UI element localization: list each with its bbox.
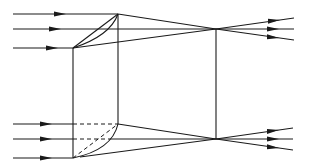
top-diverging-rays (216, 18, 294, 40)
lens-block (73, 14, 118, 158)
top-converging-rays (73, 14, 216, 48)
arrow-icon (267, 34, 279, 39)
arrow-icon (40, 137, 52, 142)
arrow-icon (40, 156, 52, 161)
bottom-incoming-rays (13, 122, 73, 161)
optics-diagram (0, 0, 309, 166)
arrow-icon (54, 12, 66, 17)
arrow-icon (267, 27, 279, 32)
arrow-icon (49, 27, 61, 32)
arrow-icon (46, 46, 58, 51)
arrow-icon (267, 129, 279, 134)
arrow-icon (268, 19, 280, 24)
arrow-icon (267, 137, 279, 142)
arrow-icon (40, 122, 52, 127)
bottom-converging-rays (80, 124, 216, 157)
bottom-diverging-rays (216, 128, 293, 150)
arrow-icon (267, 144, 279, 149)
